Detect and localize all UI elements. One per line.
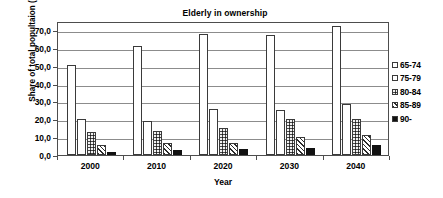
- x-axis-title: Year: [57, 177, 389, 187]
- y-axis-tick-label: 60,0: [11, 44, 51, 54]
- x-axis-tick-mark: [323, 156, 324, 160]
- bar-group: [191, 23, 257, 155]
- y-axis-tick-label: 30,0: [11, 97, 51, 107]
- bar: [67, 65, 76, 155]
- bar: [286, 119, 295, 155]
- bar: [209, 109, 218, 155]
- bar: [332, 26, 341, 155]
- bar: [143, 121, 152, 155]
- bar-group: [58, 23, 124, 155]
- x-axis-tick-mark: [256, 156, 257, 160]
- legend-label: 80-84: [400, 87, 421, 97]
- legend-label: 90-: [400, 114, 412, 124]
- x-axis-tick-label: 2000: [65, 161, 115, 171]
- legend-label: 85-89: [400, 100, 421, 110]
- y-axis-tick-label: 0,0: [11, 151, 51, 161]
- y-axis-tick-label: 20,0: [11, 115, 51, 125]
- bar: [362, 135, 371, 155]
- y-axis-tick-label: 40,0: [11, 80, 51, 90]
- x-axis-tick-mark: [123, 156, 124, 160]
- bar: [342, 104, 351, 155]
- x-axis-tick-mark: [389, 156, 390, 160]
- legend-swatch-icon: [392, 75, 398, 81]
- bar: [133, 46, 142, 155]
- y-axis-tick-label: 70,0: [11, 26, 51, 36]
- legend-item: 85-89: [392, 99, 443, 113]
- legend-swatch-icon: [392, 116, 398, 122]
- bar-group: [324, 23, 390, 155]
- bar: [163, 143, 172, 156]
- bar-chart: Elderly in ownership Share of total popu…: [0, 0, 443, 198]
- legend-label: 75-79: [400, 73, 421, 83]
- bar: [153, 131, 162, 155]
- legend-item: 90-: [392, 112, 443, 126]
- legend-item: 80-84: [392, 85, 443, 99]
- bar: [229, 143, 238, 156]
- bar: [173, 150, 182, 155]
- bar: [372, 145, 381, 155]
- x-axis-tick-label: 2040: [331, 161, 381, 171]
- legend-label: 65-74: [400, 60, 421, 70]
- bar: [239, 149, 248, 155]
- chart-title: Elderly in ownership: [60, 8, 390, 18]
- legend-item: 75-79: [392, 72, 443, 86]
- bar: [276, 110, 285, 155]
- legend-swatch-icon: [392, 89, 398, 95]
- bar: [306, 148, 315, 155]
- x-axis-tick-label: 2010: [132, 161, 182, 171]
- legend: 65-7475-7980-8485-8990-: [392, 58, 443, 126]
- bar-group: [124, 23, 190, 155]
- bar-groups: [58, 23, 388, 155]
- x-axis-tick-mark: [190, 156, 191, 160]
- x-axis-tick-label: 2020: [198, 161, 248, 171]
- legend-item: 65-74: [392, 58, 443, 72]
- y-axis-tick-label: 10,0: [11, 133, 51, 143]
- bar: [199, 34, 208, 155]
- x-axis-tick-mark: [57, 156, 58, 160]
- bar: [266, 35, 275, 155]
- plot-area: [57, 22, 389, 156]
- bar: [107, 152, 116, 155]
- bar: [87, 132, 96, 155]
- bar: [352, 119, 361, 155]
- y-axis-tick-label: 50,0: [11, 62, 51, 72]
- bar: [219, 128, 228, 155]
- legend-swatch-icon: [392, 102, 398, 108]
- x-axis-tick-label: 2030: [264, 161, 314, 171]
- legend-swatch-icon: [392, 62, 398, 68]
- bar: [296, 137, 305, 155]
- bar: [77, 119, 86, 155]
- bar: [97, 145, 106, 155]
- bar-group: [257, 23, 323, 155]
